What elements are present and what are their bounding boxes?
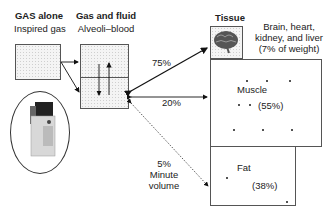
vaporizer-icon — [11, 92, 69, 173]
vaporizer-ellipse — [10, 91, 70, 174]
